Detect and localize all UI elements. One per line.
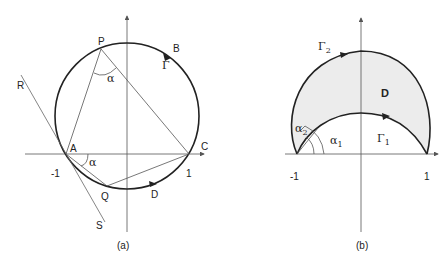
chord-pa — [66, 49, 101, 154]
label-p: P — [98, 36, 105, 47]
chord-qc — [107, 154, 189, 186]
label-alpha-1: α1 — [330, 134, 343, 149]
label-b: B — [173, 43, 180, 54]
label-q: Q — [101, 191, 109, 202]
diagram-a: P B Γ α R A α C -1 1 Q D S (a) — [17, 16, 208, 251]
label-gamma-2: Γ2 — [318, 40, 331, 55]
arrow-d-icon — [149, 181, 157, 187]
tick-pos-1-b: 1 — [424, 171, 430, 182]
tick-neg-1-b: -1 — [290, 171, 299, 182]
caption-b: (b) — [356, 240, 368, 251]
label-r: R — [17, 80, 24, 91]
angle-arc-a — [81, 154, 88, 166]
figure-canvas: P B Γ α R A α C -1 1 Q D S (a) Γ2 D Γ — [0, 0, 448, 264]
diagram-b: Γ2 D Γ1 α2 α1 -1 1 (b) — [285, 18, 438, 251]
label-gamma: Γ — [162, 59, 170, 72]
chord-aq — [66, 154, 107, 186]
chord-pc — [101, 49, 189, 154]
label-alpha-a: α — [89, 156, 97, 169]
label-s: S — [96, 220, 103, 231]
angle-arc-alpha-1 — [306, 137, 314, 154]
label-c: C — [201, 141, 208, 152]
label-d: D — [151, 189, 158, 200]
tick-neg-1-a: -1 — [51, 168, 60, 179]
label-alpha-p: α — [107, 72, 115, 85]
label-gamma-1: Γ1 — [377, 132, 390, 147]
label-region-d: D — [381, 87, 389, 99]
caption-a: (a) — [117, 240, 129, 251]
label-a: A — [70, 143, 77, 154]
tick-pos-1-a: 1 — [186, 168, 192, 179]
tangent-line-rs — [21, 75, 105, 222]
